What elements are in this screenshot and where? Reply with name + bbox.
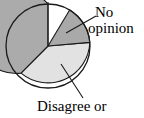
pie-label-disagree: Disagree or xyxy=(37,98,107,114)
pie-label-no-opinion-line1: No xyxy=(95,4,134,20)
pie-label-no-opinion-line2: opinion xyxy=(88,20,134,36)
pie-label-no-opinion: No opinion xyxy=(95,4,134,36)
pie-slice-no-opinion xyxy=(48,10,90,46)
pie-chart-figure: No opinion Disagree or xyxy=(0,0,144,118)
